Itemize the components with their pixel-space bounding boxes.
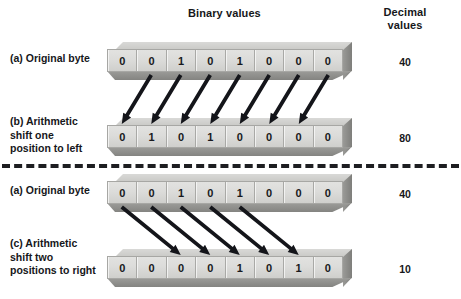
shift-arrow — [299, 74, 330, 124]
bit-cell: 0 — [255, 257, 284, 278]
bit-cell: 0 — [196, 50, 225, 71]
shift-arrow — [210, 74, 241, 124]
bit-cell: 0 — [196, 257, 225, 278]
shift-arrow — [181, 74, 212, 124]
shift-arrow — [150, 206, 210, 255]
bit-cell: 0 — [108, 182, 137, 203]
shift-arrow — [151, 74, 182, 124]
bit-cell: 0 — [108, 50, 137, 71]
bit-cell: 0 — [314, 126, 342, 147]
bit-cell: 0 — [284, 126, 313, 147]
bit-cell: 0 — [167, 126, 196, 147]
shift-arrow — [239, 206, 299, 255]
binary-values-heading: Binary values — [188, 7, 318, 20]
bit-cell: 0 — [226, 126, 255, 147]
decimal-value-shift-right: 10 — [375, 263, 435, 275]
bar-bottom-face — [107, 71, 352, 80]
bar-bottom-face — [107, 278, 352, 287]
bit-cell: 1 — [167, 182, 196, 203]
bit-cell: 0 — [137, 50, 166, 71]
shift-arrow — [180, 206, 240, 255]
bit-cell: 0 — [255, 182, 284, 203]
bit-cell: 0 — [137, 257, 166, 278]
bit-cell: 1 — [137, 126, 166, 147]
shift-arrow — [209, 206, 269, 255]
bit-cell: 0 — [137, 182, 166, 203]
byte-bar-original-bottom: 0 0 1 0 1 0 0 0 — [107, 174, 352, 212]
decimal-values-heading: Decimal values — [366, 6, 444, 32]
bit-cell: 1 — [284, 257, 313, 278]
decimal-value-shift-left: 80 — [375, 132, 435, 144]
byte-bar-original-top: 0 0 1 0 1 0 0 0 — [107, 42, 352, 80]
bit-cell: 1 — [226, 257, 255, 278]
section-divider — [2, 164, 459, 168]
bar-bottom-face — [107, 203, 352, 212]
shift-arrow — [269, 74, 300, 124]
bit-cell: 0 — [284, 50, 313, 71]
shift-arrow — [122, 74, 153, 124]
shift-arrow — [240, 74, 271, 124]
row-label-original-byte-top: (a) Original byte — [10, 52, 110, 66]
bit-cells: 0 0 0 0 1 0 1 0 — [107, 256, 343, 279]
bit-cells: 0 0 1 0 1 0 0 0 — [107, 181, 343, 204]
row-label-shift-left: (b) Arithmetic shift one position to lef… — [10, 115, 110, 156]
bit-cell: 0 — [108, 126, 137, 147]
byte-bar-shift-left: 0 1 0 1 0 0 0 0 — [107, 118, 352, 156]
bit-cell: 0 — [255, 126, 284, 147]
shift-arrow — [121, 206, 181, 255]
bit-cell: 0 — [314, 257, 342, 278]
bit-cell: 1 — [226, 50, 255, 71]
bit-cell: 0 — [255, 50, 284, 71]
row-label-shift-right: (c) Arithmetic shift two positions to ri… — [10, 237, 110, 278]
bit-cell: 1 — [226, 182, 255, 203]
bit-cells: 0 1 0 1 0 0 0 0 — [107, 125, 343, 148]
byte-bar-shift-right: 0 0 0 0 1 0 1 0 — [107, 249, 352, 287]
bit-cell: 0 — [314, 182, 342, 203]
bit-cell: 0 — [108, 257, 137, 278]
decimal-value-original-top: 40 — [375, 56, 435, 68]
bit-cell: 0 — [167, 257, 196, 278]
bit-cells: 0 0 1 0 1 0 0 0 — [107, 49, 343, 72]
decimal-value-original-bottom: 40 — [375, 188, 435, 200]
bit-cell: 1 — [196, 126, 225, 147]
bar-bottom-face — [107, 147, 352, 156]
row-label-original-byte-bottom: (a) Original byte — [10, 184, 110, 198]
bit-cell: 0 — [284, 182, 313, 203]
bit-cell: 0 — [196, 182, 225, 203]
bit-cell: 1 — [167, 50, 196, 71]
arithmetic-shift-diagram: Binary values Decimal values (a) Origina… — [0, 0, 461, 299]
bit-cell: 0 — [314, 50, 342, 71]
